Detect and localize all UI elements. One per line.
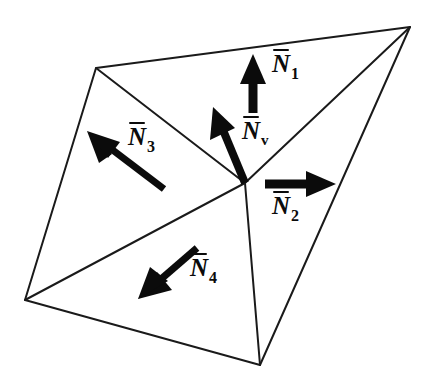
vector-label-N3-symbol: N	[128, 124, 146, 149]
vector-label-Nv-subscript: v	[260, 133, 269, 148]
vector-overbar	[243, 116, 259, 118]
vector-overbar	[273, 49, 289, 51]
vector-label-N2-symbol: N	[272, 193, 290, 218]
vector-overbar	[273, 191, 289, 193]
vector-label-N2-subscript: 2	[290, 208, 299, 224]
figure-canvas: N1 Nv N2 N3 N4	[0, 0, 429, 381]
vector-label-N4-symbol: N	[190, 255, 208, 280]
vector-label-N1-symbol: N	[272, 51, 290, 76]
vector-label-Nv-symbol: N	[242, 118, 260, 143]
vector-overbar	[191, 253, 207, 255]
vector-label-Nv: Nv	[242, 118, 269, 148]
vector-label-N4: N4	[190, 255, 217, 286]
vector-label-N1: N1	[272, 51, 299, 82]
vector-label-N1-subscript: 1	[290, 66, 299, 82]
mesh-diagram	[0, 0, 429, 381]
vector-label-N2: N2	[272, 193, 299, 224]
vector-overbar	[129, 122, 145, 124]
vector-label-N4-subscript: 4	[208, 270, 217, 286]
vector-label-N3-subscript: 3	[146, 139, 155, 155]
vector-label-N3: N3	[128, 124, 155, 155]
